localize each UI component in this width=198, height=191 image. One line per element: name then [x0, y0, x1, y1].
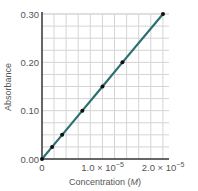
- data-point: [101, 85, 105, 89]
- y-tick-label: 0.00: [21, 154, 40, 165]
- y-tick-label: 0.30: [21, 9, 40, 20]
- y-tick-labels: 0.000.100.200.30: [21, 9, 40, 165]
- absorbance-chart: 0.000.100.200.30 01.0 × 10−52.0 × 10−5 A…: [0, 0, 198, 191]
- y-tick-label: 0.20: [21, 57, 40, 68]
- data-point: [120, 60, 124, 64]
- x-tick-label: 2.0 × 10−5: [142, 161, 185, 173]
- x-axis-label: Concentration (M): [69, 177, 141, 187]
- data-point: [60, 133, 64, 137]
- x-tick-label: 0: [39, 162, 44, 173]
- y-tick-label: 0.10: [21, 105, 40, 116]
- data-point: [80, 109, 84, 113]
- data-point: [161, 12, 165, 16]
- x-tick-labels: 01.0 × 10−52.0 × 10−5: [39, 161, 184, 173]
- x-tick-label: 1.0 × 10−5: [81, 161, 124, 173]
- y-axis-label: Absorbance: [3, 63, 13, 111]
- data-point: [40, 157, 44, 161]
- data-point: [50, 145, 54, 149]
